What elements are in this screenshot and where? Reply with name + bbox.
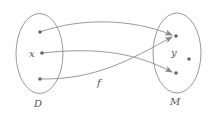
point-label-x: x — [29, 48, 35, 59]
codomain-point — [174, 34, 178, 38]
codomain-set-ellipse — [153, 13, 201, 93]
function-label: f — [96, 77, 103, 88]
codomain-point — [174, 71, 178, 75]
domain-set-label: D — [33, 98, 42, 109]
domain-point — [38, 77, 42, 81]
codomain-set-label: M — [169, 96, 181, 107]
domain-point — [40, 51, 44, 55]
diagram-canvas: xDMyf — [0, 0, 212, 115]
domain-point — [38, 30, 42, 34]
image-point-label: y — [170, 47, 177, 58]
domain-set-ellipse — [16, 14, 63, 94]
codomain-point — [187, 57, 191, 61]
function-diagram: xDMyf — [0, 0, 212, 115]
